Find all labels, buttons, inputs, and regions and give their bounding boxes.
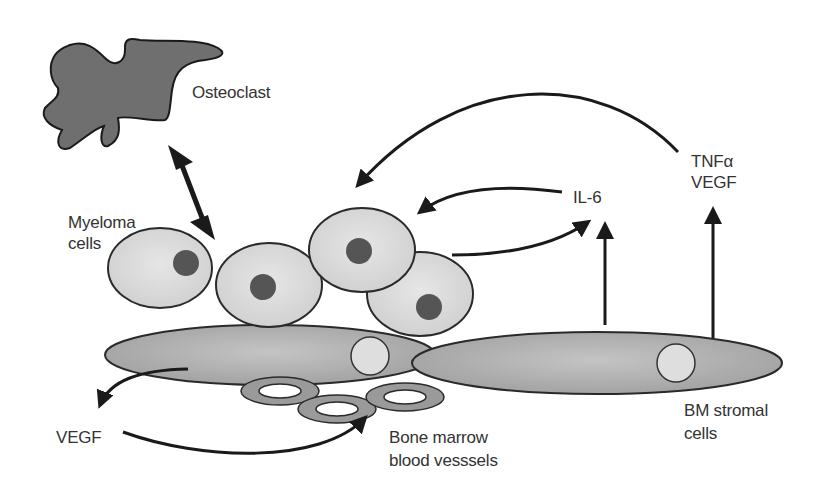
myeloma-label-line2: cells: [68, 233, 101, 255]
blood-vessel-3: [366, 383, 444, 411]
stromal-label-line1: BM stromal: [684, 400, 768, 422]
vessels-label-line1: Bone marrow: [389, 427, 488, 449]
vessels-label-line2: blood vesssels: [389, 450, 498, 472]
tnf-to-myeloma-arrow: [358, 94, 678, 185]
il6-to-myeloma-arrow: [420, 188, 562, 212]
myeloma-to-il6-arrow: [452, 222, 588, 255]
stromal-cell-right: [412, 332, 782, 394]
tnf-label-line2: VEGF: [691, 172, 737, 194]
osteoclast-label: Osteoclast: [192, 82, 270, 104]
tnf-label-line1: TNFα: [691, 151, 733, 173]
il6-label: IL-6: [573, 187, 602, 209]
myeloma-label-line1: Myeloma: [68, 212, 136, 234]
vegf-label: VEGF: [56, 427, 102, 449]
stromal-label-line2: cells: [684, 423, 717, 445]
